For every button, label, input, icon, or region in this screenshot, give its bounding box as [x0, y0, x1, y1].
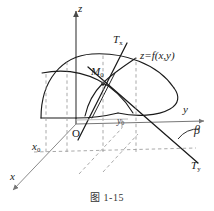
tangent-Ty-subscript: y [197, 165, 200, 172]
point-M0-label: M0 [91, 66, 104, 78]
point-M0-subscript: 0 [100, 71, 103, 78]
dashed-horizontal-base [34, 148, 196, 152]
origin-label: O [72, 128, 80, 139]
x-axis [13, 124, 76, 190]
surface-section-curves [42, 58, 136, 116]
tangent-Tx-label: Tx [113, 34, 123, 46]
dashed-parallel-x-2 [103, 134, 138, 172]
tangent-Tx-subscript: x [119, 39, 122, 46]
y-axis-label: y [183, 104, 188, 115]
surface-base-edge-near [76, 113, 118, 118]
tangent-line-Ty [88, 67, 198, 163]
x0-label: x0 [32, 141, 40, 153]
angle-beta-label: β [194, 124, 200, 136]
x-axis-label: x [10, 171, 15, 182]
x0-subscript: 0 [37, 146, 40, 153]
y0-subscript: 0 [121, 120, 124, 126]
tangent-Ty-label: Ty [191, 160, 201, 172]
partial-derivative-geometry-diagram [0, 0, 214, 211]
y0-label: y0 [117, 117, 124, 127]
figure-container: z y x O M0 x0 y0 Tx Ty β z=f(x,y) 图 1-15 [0, 0, 214, 211]
surface-equation-label: z=f(x,y) [140, 50, 175, 61]
figure-caption: 图 1-15 [0, 193, 214, 203]
point-M0-letter: M [91, 65, 100, 77]
y-axis [76, 121, 204, 124]
z-axis-label: z [78, 3, 82, 14]
coordinate-axes [13, 11, 204, 190]
